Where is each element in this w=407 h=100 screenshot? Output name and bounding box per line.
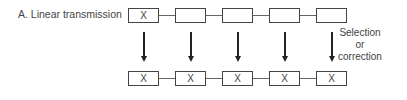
note-line: or <box>338 39 382 51</box>
arrowhead-icon <box>282 56 288 62</box>
top-box-4 <box>269 8 300 23</box>
arrowhead-icon <box>235 56 241 62</box>
arrowhead-icon <box>329 56 335 62</box>
note-line: correction <box>338 51 382 63</box>
down-arrow-4 <box>284 32 286 57</box>
down-arrow-3 <box>237 32 239 57</box>
top-box-3 <box>222 8 253 23</box>
bottom-box-1: X <box>128 71 159 86</box>
connector <box>206 78 222 79</box>
top-box-5 <box>316 8 347 23</box>
connector <box>300 15 316 16</box>
bottom-box-4: X <box>269 71 300 86</box>
connector <box>300 78 316 79</box>
connector <box>206 15 222 16</box>
top-box-1: X <box>128 8 159 23</box>
bottom-box-5: X <box>316 71 347 86</box>
down-arrow-5 <box>331 32 333 57</box>
connector <box>253 15 269 16</box>
down-arrow-2 <box>190 32 192 57</box>
connector <box>159 15 175 16</box>
selection-note: Selection or correction <box>338 27 382 63</box>
bottom-box-3: X <box>222 71 253 86</box>
arrowhead-icon <box>188 56 194 62</box>
connector <box>253 78 269 79</box>
bottom-box-2: X <box>175 71 206 86</box>
note-line: Selection <box>338 27 382 39</box>
connector <box>159 78 175 79</box>
diagram-label: A. Linear transmission <box>18 8 122 20</box>
arrowhead-icon <box>141 56 147 62</box>
top-box-2 <box>175 8 206 23</box>
down-arrow-1 <box>143 32 145 57</box>
